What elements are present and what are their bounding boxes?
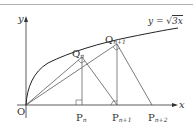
- point-label-Pn2: Pn+2: [148, 108, 167, 124]
- curve-equation-label: y = √3x: [148, 17, 183, 26]
- right-angle-Pn-icon: [76, 100, 82, 105]
- right-angle-Pn1-icon: [111, 101, 117, 105]
- point-label-Qn1: Qn+1: [105, 30, 126, 46]
- segment-Qn-Pn1: [82, 57, 117, 105]
- y-axis-label: y: [18, 14, 24, 24]
- curve-sqrt-3x: [26, 28, 178, 105]
- origin-label: O: [17, 107, 25, 117]
- segment-O-Qn: [26, 57, 82, 105]
- point-label-Qn: Qn: [72, 44, 84, 60]
- x-axis-label: x: [179, 100, 185, 110]
- point-label-Pn: Pn: [76, 108, 87, 124]
- y-axis-arrow-icon: [24, 16, 28, 22]
- x-axis-arrow-icon: [172, 103, 178, 107]
- right-angle-Qn-icon: [78, 60, 85, 63]
- segment-Qn1-Pn2: [117, 44, 152, 105]
- point-label-Pn1: Pn+1: [112, 108, 131, 124]
- x-axis: [17, 103, 178, 107]
